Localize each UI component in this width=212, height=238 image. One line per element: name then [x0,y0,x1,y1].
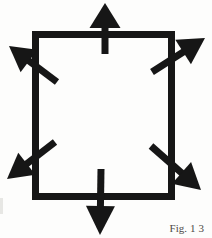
arrow-bottom-left [7,142,55,179]
arrow-top [90,3,121,54]
scan-artifact [0,198,3,214]
arrow-bottom-right [151,146,201,190]
figure-caption: Fig.13 [170,223,207,234]
figure-diagram [0,0,212,238]
arrow-top-right [152,38,205,72]
caption-number: 13 [190,222,207,234]
caption-label: Fig. [170,222,187,234]
figure: Fig.13 [0,0,212,238]
arrow-bottom [86,169,115,235]
